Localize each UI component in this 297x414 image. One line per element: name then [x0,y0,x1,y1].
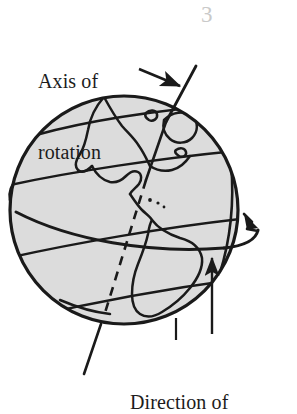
direction-label-line-1: Direction of [130,391,228,414]
direction-of-rotation-label: Direction of rotation [130,344,228,414]
page-number: 3 [201,2,213,28]
rotation-direction-arrowhead [244,214,258,231]
axis-label-line-2: rotation [38,141,101,165]
rotation-axis-lower-extension [84,324,101,374]
axis-label-line-1: Axis of [38,70,101,94]
figure-root: Axis of rotation Direction of rotation 3 [0,0,297,414]
axis-callout-arrow [139,69,180,86]
axis-of-rotation-label: Axis of rotation [38,23,101,212]
